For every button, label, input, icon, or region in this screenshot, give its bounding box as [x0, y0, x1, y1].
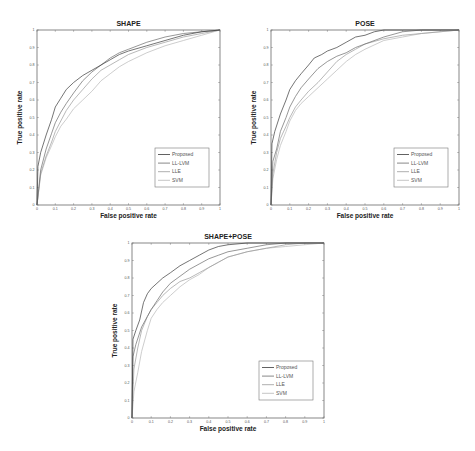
legend-label: SVM — [172, 177, 183, 183]
x-tick-label: 0.6 — [144, 207, 149, 211]
legend-label: LL-LVM — [411, 160, 428, 166]
x-tick-label: 0.5 — [126, 207, 131, 211]
x-tick-label: 0 — [131, 420, 133, 424]
y-tick-label: 0.3 — [125, 364, 130, 368]
x-tick-label: 0.6 — [381, 207, 386, 211]
y-tick-label: 1 — [267, 28, 269, 32]
legend-label: Proposed — [276, 364, 298, 370]
x-tick-label: 0.9 — [199, 207, 204, 211]
y-tick-label: 0.6 — [264, 98, 269, 102]
x-tick-label: 0.2 — [168, 420, 173, 424]
y-axis-label: True positive rate — [111, 303, 119, 357]
y-tick-label: 0.8 — [264, 63, 269, 67]
y-tick-label: 0.4 — [264, 133, 269, 137]
legend-label: LL-LVM — [172, 160, 189, 166]
x-tick-label: 0.5 — [363, 207, 368, 211]
y-tick-label: 0.4 — [125, 346, 130, 350]
legend-label: LLE — [411, 168, 421, 174]
x-tick-label: 0.4 — [206, 420, 211, 424]
y-axis-label: True positive rate — [250, 90, 258, 144]
x-axis-label: False positive rate — [100, 212, 157, 220]
y-tick-label: 0.1 — [125, 399, 130, 403]
chart-pose: POSE00.10.20.30.40.50.60.70.80.9100.10.2… — [250, 20, 460, 220]
x-tick-label: 0.3 — [325, 207, 330, 211]
x-tick-label: 0.9 — [302, 420, 307, 424]
y-tick-label: 0.3 — [30, 151, 35, 155]
x-tick-label: 0.8 — [283, 420, 288, 424]
y-tick-label: 0.9 — [30, 46, 35, 50]
x-tick-label: 0.2 — [306, 207, 311, 211]
x-tick-label: 0 — [36, 207, 38, 211]
x-axis-label: False positive rate — [200, 425, 257, 433]
y-tick-label: 0.5 — [264, 116, 269, 120]
x-tick-label: 0.9 — [438, 207, 443, 211]
legend-label: LLE — [172, 168, 182, 174]
y-tick-label: 0.8 — [125, 276, 130, 280]
x-tick-label: 1 — [323, 420, 325, 424]
y-tick-label: 0.6 — [125, 311, 130, 315]
y-tick-label: 0.1 — [264, 186, 269, 190]
legend-label: Proposed — [172, 151, 194, 157]
legend-label: Proposed — [411, 151, 433, 157]
y-tick-label: 0.7 — [264, 81, 269, 85]
x-tick-label: 0.5 — [226, 420, 231, 424]
y-tick-label: 1 — [33, 28, 35, 32]
chart-title: SHAPE+POSE — [204, 233, 252, 240]
legend-label: LLE — [276, 381, 286, 387]
x-tick-label: 1 — [219, 207, 221, 211]
y-tick-label: 0.8 — [30, 63, 35, 67]
y-tick-label: 0.7 — [125, 294, 130, 298]
y-tick-label: 0.4 — [30, 133, 35, 137]
y-tick-label: 1 — [128, 241, 130, 245]
x-tick-label: 0.7 — [400, 207, 405, 211]
y-tick-label: 0 — [267, 203, 269, 207]
y-tick-label: 0.7 — [30, 81, 35, 85]
x-tick-label: 0.7 — [163, 207, 168, 211]
x-tick-label: 0.1 — [149, 420, 154, 424]
x-tick-label: 0.8 — [419, 207, 424, 211]
y-axis-label: True positive rate — [16, 90, 24, 144]
y-tick-label: 0.9 — [125, 259, 130, 263]
y-tick-label: 0.5 — [30, 116, 35, 120]
y-tick-label: 0.2 — [264, 168, 269, 172]
x-tick-label: 0.1 — [287, 207, 292, 211]
x-axis-label: False positive rate — [337, 212, 394, 220]
y-tick-label: 0.3 — [264, 151, 269, 155]
y-tick-label: 0.2 — [30, 168, 35, 172]
chart-title: POSE — [355, 20, 375, 27]
x-tick-label: 0.3 — [187, 420, 192, 424]
y-tick-label: 0.9 — [264, 46, 269, 50]
x-tick-label: 0.8 — [181, 207, 186, 211]
legend: ProposedLL-LVMLLESVM — [155, 148, 209, 187]
y-tick-label: 0.1 — [30, 186, 35, 190]
x-tick-label: 0.2 — [71, 207, 76, 211]
legend-label: LL-LVM — [276, 373, 293, 379]
y-tick-label: 0 — [33, 203, 35, 207]
y-tick-label: 0 — [128, 416, 130, 420]
chart-shape: SHAPE00.10.20.30.40.50.60.70.80.9100.10.… — [16, 20, 221, 220]
chart-shape-pose: SHAPE+POSE00.10.20.30.40.50.60.70.80.910… — [111, 233, 325, 433]
legend: ProposedLL-LVMLLESVM — [259, 361, 313, 400]
chart-title: SHAPE — [116, 20, 140, 27]
legend: ProposedLL-LVMLLESVM — [394, 148, 448, 187]
figure-canvas: SHAPE00.10.20.30.40.50.60.70.80.9100.10.… — [0, 0, 475, 451]
y-tick-label: 0.2 — [125, 381, 130, 385]
x-tick-label: 0 — [270, 207, 272, 211]
y-tick-label: 0.5 — [125, 329, 130, 333]
x-tick-label: 0.6 — [245, 420, 250, 424]
x-tick-label: 0.7 — [264, 420, 269, 424]
x-tick-label: 1 — [458, 207, 460, 211]
x-tick-label: 0.3 — [89, 207, 94, 211]
x-tick-label: 0.4 — [344, 207, 349, 211]
legend-label: SVM — [276, 390, 287, 396]
y-tick-label: 0.6 — [30, 98, 35, 102]
x-tick-label: 0.4 — [108, 207, 113, 211]
x-tick-label: 0.1 — [53, 207, 58, 211]
legend-label: SVM — [411, 177, 422, 183]
